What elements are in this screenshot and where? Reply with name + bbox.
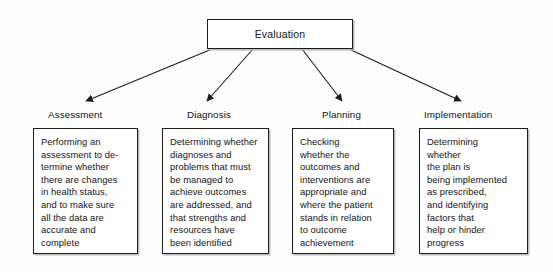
detail-text-implementation: Determining whether the plan is being im…	[427, 136, 527, 249]
detail-text-planning: Checking whether the outcomes and interv…	[300, 136, 393, 249]
evaluation-flowchart: Evaluation Assessment Diagnosis Planning…	[0, 0, 553, 272]
phase-label-implementation: Implementation	[424, 109, 492, 120]
root-node-label: Evaluation	[255, 28, 306, 40]
detail-text-diagnosis: Determining whether diagnoses and proble…	[170, 136, 268, 249]
detail-box-diagnosis[interactable]: Determining whether diagnoses and proble…	[162, 128, 269, 254]
phase-label-diagnosis: Diagnosis	[187, 109, 231, 120]
connector-to-assessment	[86, 49, 212, 101]
detail-text-assessment: Performing an assessment to de- termine …	[41, 136, 137, 249]
phase-label-assessment: Assessment	[48, 109, 102, 120]
phase-label-planning: Planning	[322, 109, 361, 120]
detail-box-planning[interactable]: Checking whether the outcomes and interv…	[292, 128, 394, 254]
connector-to-implementation	[349, 49, 461, 101]
root-node-evaluation[interactable]: Evaluation	[207, 19, 353, 49]
connector-to-planning	[302, 49, 342, 101]
detail-box-implementation[interactable]: Determining whether the plan is being im…	[419, 128, 528, 254]
detail-box-assessment[interactable]: Performing an assessment to de- termine …	[33, 128, 138, 254]
connector-to-diagnosis	[207, 49, 253, 101]
